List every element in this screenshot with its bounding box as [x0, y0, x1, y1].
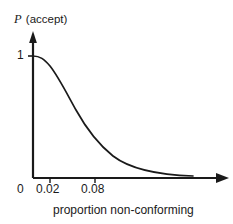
x-tick-label-002: 0.02: [36, 183, 59, 195]
chart-canvas: [0, 0, 233, 224]
y-axis-title-text: (accept): [23, 13, 68, 25]
x-tick-label-origin: 0: [17, 183, 24, 195]
y-axis-arrowhead: [29, 31, 37, 43]
oc-curve-line: [33, 56, 193, 176]
y-axis-title-symbol: P: [14, 12, 23, 26]
oc-curve-figure: P (accept) 1 0 0.02 0.08 proportion non-…: [0, 0, 233, 224]
x-axis-title: proportion non-conforming: [53, 204, 194, 216]
x-axis-arrowhead: [216, 173, 229, 183]
y-tick-label-1: 1: [17, 49, 24, 61]
x-tick-label-008: 0.08: [81, 183, 104, 195]
y-axis-title: P (accept): [14, 13, 67, 26]
